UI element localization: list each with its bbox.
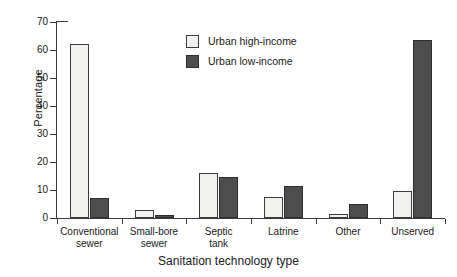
bar — [264, 197, 283, 218]
y-axis-tick — [50, 162, 57, 163]
legend-label: Urban high-income — [208, 36, 297, 47]
legend: Urban high-income Urban low-income — [186, 33, 297, 73]
bar — [393, 191, 412, 218]
x-axis-tick — [122, 219, 123, 224]
x-axis-tick — [57, 219, 58, 224]
y-axis-tick — [50, 22, 57, 23]
y-axis-tick-label: 70 — [2, 17, 48, 27]
x-axis-tick — [186, 219, 187, 224]
bar — [329, 214, 348, 218]
bar — [284, 186, 303, 218]
y-axis-tick — [50, 134, 57, 135]
y-axis-tick — [50, 218, 57, 219]
bar-group — [70, 44, 109, 218]
y-axis-tick — [50, 50, 57, 51]
y-axis-tick-label-wrap: 0 — [0, 213, 48, 223]
legend-label: Urban low-income — [208, 56, 293, 67]
y-axis-tick — [50, 106, 57, 107]
x-axis-tick-label: Unserved — [367, 226, 457, 238]
x-axis-tick — [445, 219, 446, 224]
y-axis-tick-label-wrap: 20 — [0, 157, 48, 167]
bar — [90, 198, 109, 218]
bar — [413, 40, 432, 218]
bar — [135, 210, 154, 218]
bar-chart: 706050403020100 Percentage Conventionals… — [0, 0, 457, 277]
bar-group — [264, 186, 303, 218]
bar — [155, 215, 174, 218]
bar — [219, 177, 238, 218]
bar-group — [135, 210, 174, 218]
y-axis-title: Percentage — [32, 38, 44, 158]
x-axis-tick — [380, 219, 381, 224]
bar-group — [393, 40, 432, 218]
y-axis-tick-label: 10 — [2, 185, 48, 195]
y-axis-tick-label: 20 — [2, 157, 48, 167]
bar — [349, 204, 368, 218]
y-axis-tick-label-wrap: 70 — [0, 17, 48, 27]
y-axis-tick — [50, 78, 57, 79]
y-axis-tick-label-wrap: 10 — [0, 185, 48, 195]
y-axis-tick — [50, 190, 57, 191]
legend-item-urban-high-income: Urban high-income — [186, 33, 297, 49]
x-axis-tick — [251, 219, 252, 224]
legend-light-swatch-icon — [186, 35, 199, 48]
legend-item-urban-low-income: Urban low-income — [186, 53, 297, 69]
bar — [70, 44, 89, 218]
x-axis-tick — [316, 219, 317, 224]
bar-group — [329, 204, 368, 218]
y-axis-tick-label: 0 — [2, 213, 48, 223]
legend-dark-swatch-icon — [186, 55, 199, 68]
bar-group — [199, 173, 238, 218]
x-axis-title: Sanitation technology type — [0, 254, 457, 268]
bar — [199, 173, 218, 218]
